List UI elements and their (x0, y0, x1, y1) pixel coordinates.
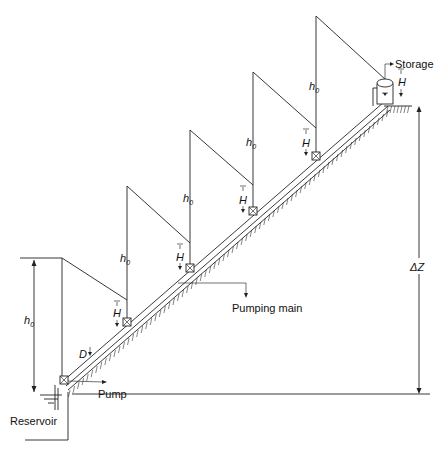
svg-text:D: D (79, 348, 87, 360)
svg-text:Pumping main: Pumping main (232, 302, 302, 314)
pump-box-1 (123, 318, 131, 326)
svg-text:H: H (176, 251, 184, 263)
head-h-markers: H H H H H (113, 69, 406, 327)
svg-text:ΔZ: ΔZ (409, 261, 425, 273)
pump-box-3 (249, 207, 257, 215)
svg-text:H: H (113, 307, 121, 319)
pipeline (62, 102, 390, 390)
h0-label-1: h0 (120, 252, 130, 266)
svg-text:h0: h0 (24, 314, 34, 328)
pumping-main-callout: Pumping main (178, 283, 302, 314)
h0-label-4: h0 (309, 80, 319, 94)
reservoir-label: Reservoir (10, 415, 57, 427)
pump-box-2 (186, 264, 194, 272)
pump-box-4 (312, 152, 320, 160)
svg-text:H: H (239, 194, 247, 206)
h0-label-3: h0 (246, 136, 256, 150)
pump-box-0 (60, 376, 68, 384)
svg-text:H: H (302, 137, 310, 149)
h0-dimension-reservoir: h0 (24, 260, 37, 392)
svg-text:Pump: Pump (98, 388, 127, 400)
hydraulic-grade-line (62, 16, 386, 378)
h0-label-2: h0 (183, 192, 193, 206)
pumping-main-diagram: h0 h0 h0 h0 h0 H H H (0, 0, 444, 452)
svg-text:H: H (398, 76, 406, 88)
pump-callout: Pump (68, 380, 127, 400)
reservoir (20, 258, 68, 440)
delta-z-dimension: ΔZ (409, 106, 425, 394)
storage-label: Storage (395, 58, 434, 70)
